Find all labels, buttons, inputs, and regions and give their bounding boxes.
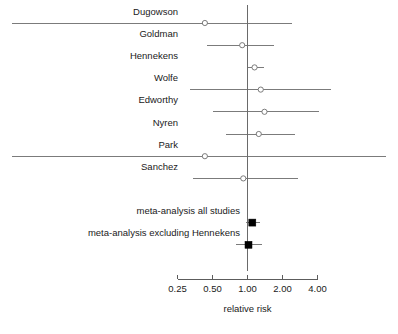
study-point-estimate-marker [256,131,261,136]
x-axis-tick-label: 0.50 [203,283,222,294]
summary-point-estimate-marker [249,219,256,226]
study-point-estimate-marker [202,20,207,25]
study-point-estimate-marker [202,154,207,159]
x-axis-tick-label: 0.25 [168,283,187,294]
x-axis-title: relative risk [223,303,271,314]
study-row-label: Hennekens [130,50,178,61]
study-row-label: Wolfe [154,72,178,83]
forest-plot-figure: DugowsonGoldmanHennekensWolfeEdworthyNyr… [0,0,398,334]
summary-row-label: meta-analysis excluding Hennekens [88,227,240,238]
study-point-estimate-marker [258,87,263,92]
x-axis-tick-label: 2.00 [273,283,292,294]
x-axis-tick-label: 1.00 [238,283,257,294]
study-point-estimate-marker [240,43,245,48]
study-row-label: Dugowson [133,6,178,17]
study-row-label: Park [158,139,178,150]
study-row-label: Edworthy [138,94,178,105]
study-point-estimate-marker [252,65,257,70]
study-row-label: Goldman [139,28,178,39]
x-axis-tick-label: 4.00 [308,283,327,294]
study-point-estimate-marker [262,109,267,114]
summary-row-label: meta-analysis all studies [137,205,241,216]
study-point-estimate-marker [241,176,246,181]
forest-plot-svg: DugowsonGoldmanHennekensWolfeEdworthyNyr… [0,0,398,334]
summary-point-estimate-marker [245,241,252,248]
study-row-label: Nyren [153,117,178,128]
study-row-label: Sanchez [141,161,178,172]
